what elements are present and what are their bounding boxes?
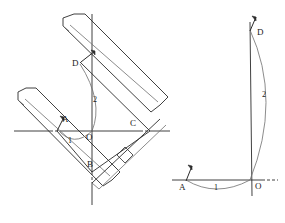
tick-mark-d [81, 50, 95, 62]
arc-2-right [250, 30, 266, 180]
label-point-o: O [86, 132, 93, 142]
label-point-b: B [87, 159, 93, 169]
label-point-d: D [72, 58, 79, 68]
right-angle-mark [117, 147, 133, 163]
label-point-d-right: D [257, 27, 264, 37]
arc-1-right [186, 180, 250, 189]
vertical-axis-right [250, 22, 252, 196]
label-arc-1-right: 1 [214, 183, 218, 192]
label-arc-2: 2 [93, 95, 97, 104]
label-arc-2-right: 2 [262, 90, 266, 99]
label-arc-1: 1 [68, 136, 72, 145]
technical-drawing: A O C B D 1 2 [0, 0, 285, 223]
tick-mark-d-right [250, 16, 256, 31]
label-point-a: A [62, 114, 69, 124]
label-point-o-right: O [255, 181, 262, 191]
label-point-c: C [130, 118, 136, 128]
label-point-a-right: A [179, 182, 186, 192]
tick-mark-a-right [186, 165, 192, 181]
right-diagram: D O A 1 2 [172, 16, 278, 196]
blade-lower-right [92, 119, 166, 189]
left-diagram: A O C B D 1 2 [14, 14, 170, 205]
figure-canvas: A O C B D 1 2 [0, 0, 285, 223]
